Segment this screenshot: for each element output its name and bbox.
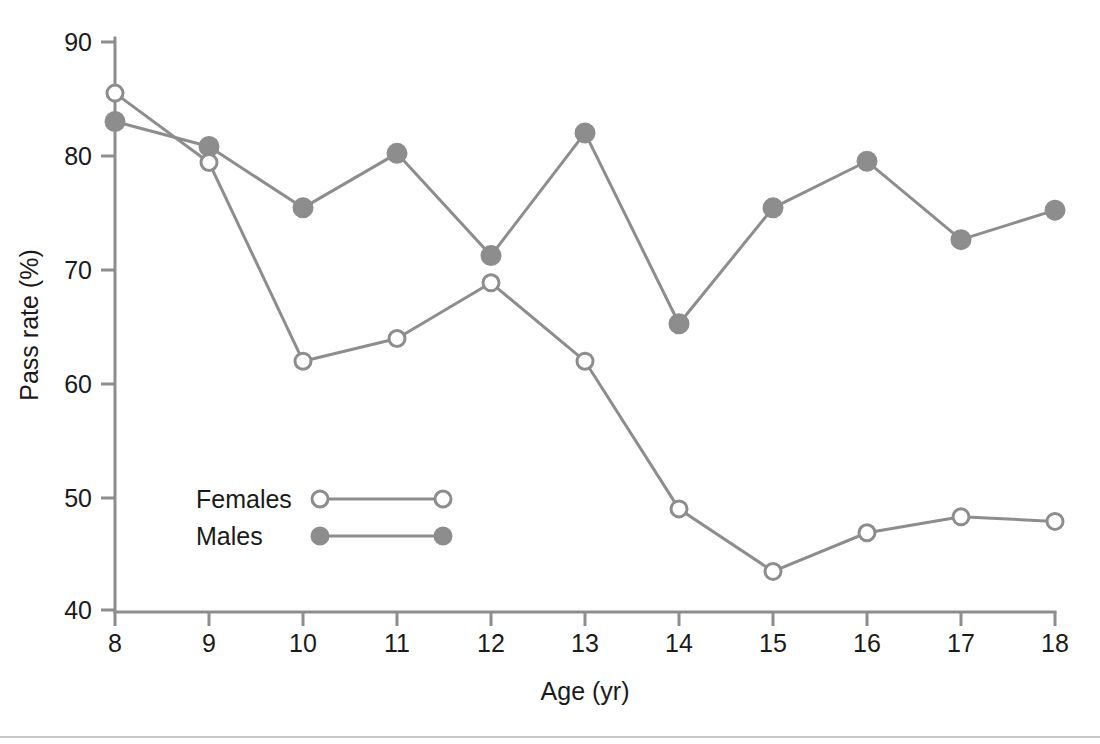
- data-point-females-age-8: [107, 85, 123, 101]
- series-markers-males: [106, 113, 1064, 333]
- x-axis-title: Age (yr): [541, 677, 630, 705]
- x-tick-label-16: 16: [853, 629, 881, 657]
- data-point-females-age-11: [389, 331, 405, 347]
- y-tick-label-50: 50: [64, 484, 92, 512]
- x-tick-label-17: 17: [947, 629, 975, 657]
- y-tick-label-80: 80: [64, 142, 92, 170]
- y-axis-title: Pass rate (%): [15, 249, 43, 400]
- x-tick-label-8: 8: [108, 629, 122, 657]
- x-tick-label-9: 9: [202, 629, 216, 657]
- legend-marker-males-right: [435, 528, 451, 544]
- y-tick-label-40: 40: [64, 596, 92, 624]
- x-tick-label-11: 11: [384, 629, 410, 657]
- line-chart-svg: 90 80 70 60 50 40 8 9 10 11 12 13: [0, 0, 1100, 744]
- x-tick-label-18: 18: [1041, 629, 1069, 657]
- legend-marker-females-right: [435, 491, 451, 507]
- data-point-males-age-10: [294, 199, 312, 217]
- legend-marker-females-left: [312, 491, 328, 507]
- y-tick-label-90: 90: [64, 28, 92, 56]
- data-point-females-age-17: [953, 509, 969, 525]
- data-point-males-age-9: [200, 138, 218, 156]
- legend-marker-males-left: [312, 528, 328, 544]
- data-point-males-age-12: [482, 247, 500, 265]
- chart-legend: Females Males: [196, 485, 451, 550]
- data-point-males-age-11: [388, 144, 406, 162]
- data-point-females-age-14: [671, 501, 687, 517]
- data-point-males-age-17: [952, 231, 970, 249]
- data-point-males-age-15: [764, 199, 782, 217]
- data-point-males-age-13: [576, 124, 594, 142]
- data-point-males-age-14: [670, 315, 688, 333]
- data-point-males-age-16: [858, 152, 876, 170]
- data-point-males-age-8: [106, 113, 124, 131]
- series-line-males: [115, 122, 1055, 324]
- x-tick-label-12: 12: [477, 629, 505, 657]
- data-point-females-age-15: [765, 563, 781, 579]
- data-point-females-age-16: [859, 525, 875, 541]
- y-tick-label-70: 70: [64, 256, 92, 284]
- legend-label-females: Females: [196, 485, 292, 513]
- data-point-females-age-12: [483, 275, 499, 291]
- x-tick-label-10: 10: [289, 629, 317, 657]
- x-tick-label-13: 13: [571, 629, 599, 657]
- chart-figure: 90 80 70 60 50 40 8 9 10 11 12 13: [0, 0, 1100, 744]
- y-tick-label-60: 60: [64, 370, 92, 398]
- data-point-females-age-13: [577, 353, 593, 369]
- x-tick-label-15: 15: [759, 629, 787, 657]
- data-point-males-age-18: [1046, 201, 1064, 219]
- data-point-females-age-18: [1047, 513, 1063, 529]
- data-point-females-age-9: [201, 154, 217, 170]
- x-axis-ticks: 8 9 10 11 12 13 14 15 16 17 18: [108, 612, 1069, 657]
- data-point-females-age-10: [295, 353, 311, 369]
- legend-label-males: Males: [196, 522, 263, 550]
- x-tick-label-14: 14: [665, 629, 693, 657]
